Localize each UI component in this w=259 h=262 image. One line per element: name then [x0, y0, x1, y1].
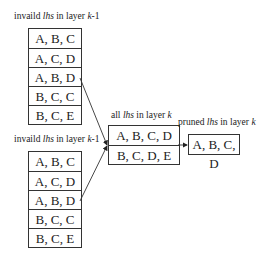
arrow-top-to-all: [80, 78, 107, 145]
arrow-bottom-to-all: [80, 146, 107, 201]
connector-arrows: [0, 0, 259, 262]
